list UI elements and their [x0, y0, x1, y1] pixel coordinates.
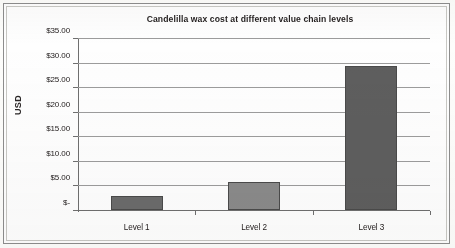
y-axis-tick-label: $15.00: [46, 124, 70, 133]
y-axis-tick: [73, 63, 78, 64]
bar-level-2: [228, 182, 280, 210]
y-axis-tick: [73, 38, 78, 39]
x-axis-tick: [195, 211, 196, 215]
chart-title: Candelilla wax cost at different value c…: [60, 14, 440, 25]
x-axis-tick: [430, 211, 431, 215]
plot-area: $-$5.00$10.00$15.00$20.00$25.00$30.00$35…: [78, 39, 430, 211]
x-axis-tick-label: Level 1: [124, 223, 150, 232]
y-axis-tick-label: $25.00: [46, 75, 70, 84]
y-axis-tick-label: $5.00: [50, 173, 70, 182]
y-axis-tick-label: $30.00: [46, 50, 70, 59]
y-axis-tick: [73, 136, 78, 137]
gridline: [78, 38, 430, 39]
x-axis-line: [78, 210, 430, 211]
x-axis-tick: [313, 211, 314, 215]
y-axis-title: USD: [13, 85, 23, 125]
bar-level-1: [111, 196, 163, 210]
y-axis-tick: [73, 87, 78, 88]
x-axis-tick-label: Level 2: [241, 223, 267, 232]
y-axis-tick-label: $-: [63, 198, 70, 207]
y-axis-tick-label: $20.00: [46, 99, 70, 108]
y-axis-tick-label: $10.00: [46, 148, 70, 157]
chart-figure: Candelilla wax cost at different value c…: [0, 0, 455, 248]
y-axis-tick: [73, 185, 78, 186]
y-axis-tick-label: $35.00: [46, 26, 70, 35]
y-axis-tick: [73, 112, 78, 113]
bar-level-3: [345, 66, 397, 210]
y-axis-tick: [73, 161, 78, 162]
gridline: [78, 63, 430, 64]
y-axis-tick: [73, 210, 78, 211]
x-axis-tick-label: Level 3: [358, 223, 384, 232]
